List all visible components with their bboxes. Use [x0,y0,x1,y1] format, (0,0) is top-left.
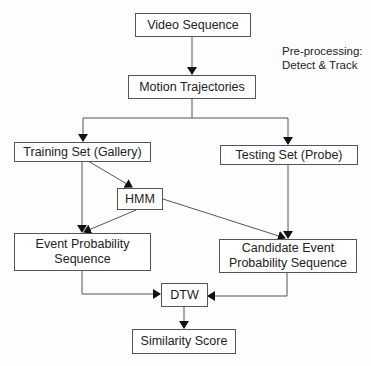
node-event-probability-sequence: Event Probability Sequence [14,233,151,271]
node-candidate-event-probability-sequence: Candidate Event Probability Sequence [219,239,357,273]
node-dtw: DTW [161,283,208,307]
node-hmm: HMM [117,188,163,210]
edge-motion-split [83,98,192,141]
edge-hmm-event [84,210,136,232]
edge-training-hmm [88,161,132,187]
edge-event-dtw [82,271,160,294]
edge-motion-testing [192,118,288,144]
preprocessing-annotation: Pre-processing: Detect & Track [282,44,363,72]
node-motion-trajectories: Motion Trajectories [128,75,256,99]
edge-candidate-dtw [208,273,287,296]
flowchart-canvas: Video Sequence Motion Trajectories Pre-p… [0,0,371,366]
node-video-sequence: Video Sequence [135,13,251,37]
node-similarity-score: Similarity Score [132,329,236,354]
edge-hmm-candidate [163,199,285,238]
node-training-set: Training Set (Gallery) [14,142,151,162]
node-testing-set: Testing Set (Probe) [220,145,358,165]
